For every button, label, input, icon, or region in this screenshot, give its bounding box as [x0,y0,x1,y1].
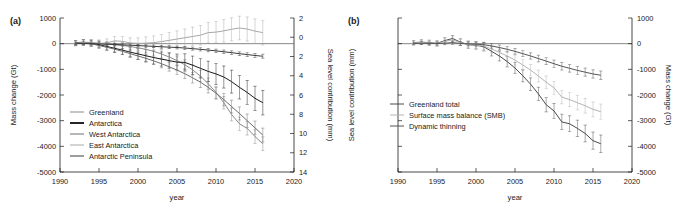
legend-item-2[interactable]: West Antarctica [70,130,141,139]
y-tick-label-right: 0 [637,39,641,48]
y-tick-label-right: 8 [299,110,303,119]
panel-a-plot: (a)1990199520002005201020152020year10000… [0,0,338,215]
y-axis-title-right: Sea level contribution (mm) [326,49,335,142]
y-tick-label-right: 14 [299,168,307,177]
panel-b: (b)1990199520002005201020152020yearSea l… [338,0,676,215]
legend-label-4: Antarctic Peninsula [89,152,153,161]
x-tick-label: 1990 [52,177,68,186]
y-tick-label-left: -4000 [37,142,56,151]
x-tick-label: 2000 [468,177,484,186]
legend-label-2: Dynamic thinning [409,122,466,131]
legend-item-1[interactable]: Antarctica [70,119,123,128]
legend-item-4[interactable]: Antarctic Peninsula [70,152,153,161]
y-tick-label-left: 1000 [40,14,56,23]
panel-b-plot: (b)1990199520002005201020152020yearSea l… [338,0,676,215]
legend-item-3[interactable]: East Antarctica [70,141,139,150]
legend-label-2: West Antarctica [89,130,141,139]
x-tick-label: 1995 [429,177,445,186]
figure-container: (a)1990199520002005201020152020year10000… [0,0,676,215]
x-tick-label: 1995 [91,177,107,186]
y-tick-label-right: 1000 [637,14,653,23]
legend-item-0[interactable]: Greenland total [390,100,460,109]
y-tick-label-right: 0 [299,33,303,42]
legend-item-1[interactable]: Surface mass balance (SMB) [390,111,505,120]
legend-label-1: Antarctica [89,119,123,128]
y-tick-label-right: 6 [299,91,303,100]
y-tick-label-right: -2000 [637,91,656,100]
x-tick-label: 2020 [624,177,640,186]
legend-item-2[interactable]: Dynamic thinning [390,122,466,131]
y-tick-label-right: -3000 [637,116,656,125]
panel-label: (b) [348,16,360,26]
y-tick-label-right: -1000 [637,65,656,74]
x-axis-title: year [508,193,523,202]
y-axis-title-left: Mass change (Gt) [9,64,18,125]
panel-a: (a)1990199520002005201020152020year10000… [0,0,338,215]
y-tick-label-right: -4000 [637,142,656,151]
x-tick-label: 2015 [585,177,601,186]
y-tick-label-left: 0 [52,39,56,48]
x-tick-label: 2010 [546,177,562,186]
x-tick-label: 2020 [286,177,302,186]
legend-item-0[interactable]: Greenland [70,108,124,117]
x-tick-label: 2005 [507,177,523,186]
legend-label-3: East Antarctica [89,141,139,150]
y-axis-title-right: Mass change (Gt) [664,65,673,126]
x-tick-label: 2015 [247,177,263,186]
y-axis-title-left: Sea level contribution (mm) [347,48,356,141]
y-tick-label-right: 12 [299,148,307,157]
y-tick-label-right: 4 [299,71,303,80]
x-tick-label: 1990 [390,177,406,186]
x-tick-label: 2010 [208,177,224,186]
x-tick-label: 2000 [130,177,146,186]
y-tick-label-right: 2 [299,14,303,23]
legend-label-0: Greenland [89,108,124,117]
x-tick-label: 2005 [169,177,185,186]
series-errorbars-1 [74,40,264,115]
legend-label-1: Surface mass balance (SMB) [409,111,505,120]
y-tick-label-left: -1000 [37,65,56,74]
series-line-1 [76,42,263,102]
y-tick-label-left: -2000 [37,91,56,100]
legend-label-0: Greenland total [409,100,460,109]
panel-label: (a) [10,16,21,26]
y-tick-label-left: -5000 [37,168,56,177]
series-line-0 [76,42,263,144]
y-tick-label-right: -5000 [637,168,656,177]
y-tick-label-left: -3000 [37,116,56,125]
y-tick-label-right: 2 [299,52,303,61]
x-axis-title: year [170,193,185,202]
y-tick-label-right: 10 [299,129,307,138]
